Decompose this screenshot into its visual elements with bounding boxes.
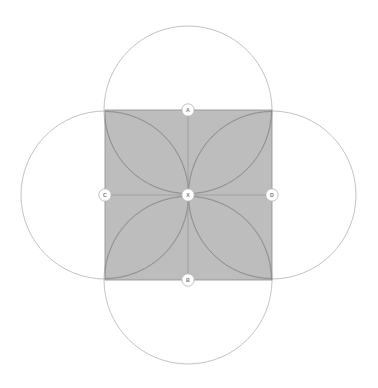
point-marker-C[interactable]: C [99,189,111,201]
geometry-figure: A B C D X [0,0,378,388]
point-label-X: X [186,192,190,198]
point-label-D: D [270,192,274,198]
point-label-C: C [103,192,107,198]
point-label-A: A [186,107,190,113]
point-marker-B[interactable]: B [182,274,194,286]
point-label-B: B [186,277,190,283]
diagram-root: A B C D X [0,0,378,388]
point-marker-A[interactable]: A [182,104,194,116]
point-marker-D[interactable]: D [266,189,278,201]
point-marker-X[interactable]: X [182,189,194,201]
